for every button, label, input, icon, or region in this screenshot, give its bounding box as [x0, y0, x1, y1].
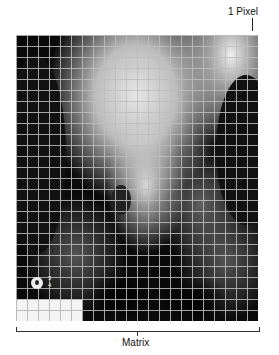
white-cells: [16, 299, 82, 321]
marker-number-top: 3: [48, 275, 51, 281]
matrix-label: Matrix: [122, 337, 149, 348]
pixel-arrow-icon: [249, 31, 255, 36]
marker-number-bottom: 4: [48, 282, 51, 288]
matrix-bracket: [16, 327, 260, 332]
pixel-label: 1 Pixel: [228, 6, 258, 17]
matrix-bracket-tick: [137, 331, 138, 336]
radiograph-image: 3 4: [16, 35, 258, 321]
side-marker-icon: [31, 277, 43, 289]
pixel-grid: [16, 35, 258, 321]
